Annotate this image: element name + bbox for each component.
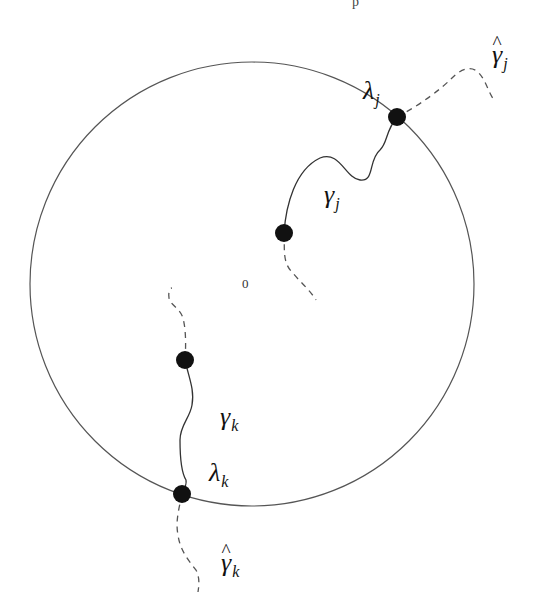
diagram-svg [0, 0, 534, 612]
origin-label: 0 [242, 277, 249, 290]
curve-gamma-hat-j-dashed [397, 69, 494, 117]
label-gamma-k: γk [220, 404, 238, 434]
hat-accent-icon: ^ [221, 541, 231, 561]
point-lambda-j [388, 108, 406, 126]
label-gamma-hat-j-sub: j [503, 55, 507, 72]
point-gamma-j-start [275, 224, 293, 242]
label-gamma-hat-k-sub: k [232, 563, 239, 580]
label-lambda-k-sub: k [221, 473, 228, 490]
label-lambda-j: λj [363, 78, 380, 108]
curve-gamma-j-dashed-continuation [284, 233, 316, 300]
label-lambda-k: λk [209, 460, 228, 490]
hat-accent-icon: ^ [492, 33, 502, 53]
curve-gamma-j [284, 117, 397, 233]
curve-gamma-k [180, 360, 193, 494]
label-lambda-j-base: λ [363, 76, 374, 105]
curve-gamma-hat-k-dashed [177, 494, 199, 592]
label-gamma-j-base: γ [324, 180, 334, 209]
point-lambda-k [173, 485, 191, 503]
label-gamma-hat-j: ^γj [492, 42, 508, 72]
label-lambda-j-sub: j [375, 91, 379, 108]
diagram-canvas: p 0 λj ^γj γj γk λk ^γk [0, 0, 534, 612]
label-gamma-k-base: γ [220, 402, 230, 431]
curve-gamma-k-dashed-continuation [169, 288, 186, 360]
point-gamma-k-start [176, 351, 194, 369]
label-gamma-j-sub: j [335, 195, 339, 212]
label-gamma-j: γj [324, 182, 340, 212]
label-lambda-k-base: λ [209, 458, 220, 487]
label-gamma-hat-k: ^γk [221, 550, 239, 580]
unit-circle [30, 62, 474, 506]
label-gamma-k-sub: k [231, 417, 238, 434]
